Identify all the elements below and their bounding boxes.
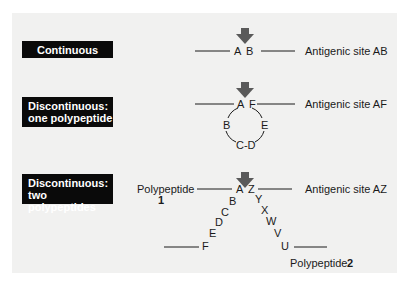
residue: A	[237, 98, 244, 110]
residue: F	[249, 98, 256, 110]
residue: B	[223, 119, 230, 131]
type-label-line2: one polypeptide	[28, 112, 113, 124]
residue: A	[236, 183, 243, 195]
loop-arc	[255, 131, 264, 142]
residue: E	[261, 119, 268, 131]
residue: B	[229, 195, 236, 207]
residue: F	[202, 240, 209, 252]
type-label-line1: Discontinuous:	[28, 177, 113, 189]
antigenic-site-label: Antigenic site AF	[305, 98, 387, 110]
antigenic-site-label: Antigenic site AB	[305, 45, 388, 57]
type-label-line2: two polypeptides	[28, 189, 113, 213]
type-label-line1: Discontinuous:	[28, 100, 113, 112]
polypeptide-1-label: Polypeptide	[137, 183, 195, 195]
down-arrow-icon	[236, 82, 254, 98]
type-label: Continuous	[37, 44, 98, 56]
loop-arc	[226, 131, 236, 142]
polypeptide-2-label: Polypeptide	[290, 257, 348, 269]
continuous-label-box: Continuous	[22, 41, 113, 58]
discontinuous-two-label-box: Discontinuous: two polypeptides	[22, 174, 113, 204]
residue: C-D	[236, 139, 256, 151]
discontinuous-one-label-box: Discontinuous: one polypeptide	[22, 97, 113, 127]
residue: U	[281, 240, 289, 252]
antigenic-site-label: Antigenic site AZ	[305, 183, 387, 195]
residue: A	[234, 45, 241, 57]
residue: E	[209, 227, 216, 239]
polypeptide-1-number: 1	[158, 194, 164, 206]
residue: W	[266, 215, 276, 227]
polypeptide-2-number: 2	[347, 257, 353, 269]
residue: B	[246, 45, 253, 57]
down-arrow-icon	[236, 28, 254, 44]
residue: V	[274, 227, 281, 239]
residue: Z	[248, 183, 255, 195]
